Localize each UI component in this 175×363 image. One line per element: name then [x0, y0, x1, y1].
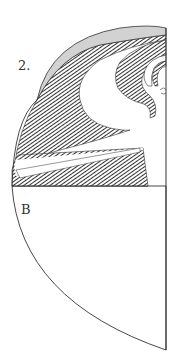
diagram-figure	[0, 0, 175, 363]
point-b-label: B	[21, 202, 31, 217]
eye-mark	[160, 88, 166, 94]
lower-quarter-disc	[12, 186, 166, 350]
figure-number-label: 2.	[18, 58, 30, 73]
inner-hatched-curl	[115, 40, 166, 118]
